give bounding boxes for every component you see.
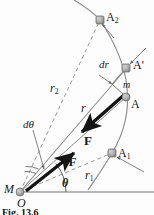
label-theta: θ [62, 177, 68, 189]
radius-line-to-A [20, 97, 126, 192]
label-mass-m: m [123, 80, 130, 90]
node-A2 [96, 16, 104, 24]
label-point-M: M [4, 183, 14, 195]
label-point-A: A [131, 98, 140, 110]
figure-caption: Fig. 13.6 [2, 207, 38, 215]
label-dtheta: dθ [23, 119, 34, 130]
label-radius-r2: r2 [50, 82, 59, 94]
node-M [16, 188, 24, 196]
label-radius-r: r [81, 102, 86, 114]
node-A1 [108, 149, 116, 157]
label-point-A2: A2 [106, 11, 119, 23]
force-vector-F-arrow [82, 95, 124, 132]
label-radius-r1: r1 [85, 169, 94, 181]
leader-a2-icon [102, 24, 114, 38]
node-A-prime [122, 64, 130, 72]
label-force-F: F [84, 134, 92, 147]
figure-container: M O A A' A1 A2 r2 r r1 dθ dr θ m F –F Fi… [0, 0, 154, 215]
leader-dtheta-icon [33, 130, 44, 169]
label-point-A-prime: A' [133, 59, 144, 71]
node-A [122, 93, 130, 101]
label-dr: dr [99, 59, 109, 70]
label-point-A1: A1 [118, 147, 131, 159]
dtheta-angle-arc-inner [25, 171, 37, 173]
leader-dr-icon [99, 75, 112, 84]
trajectory-curve [74, 0, 127, 190]
label-force-minus-F: –F [62, 155, 76, 168]
dtheta-angle-arc-outer [26, 166, 39, 169]
